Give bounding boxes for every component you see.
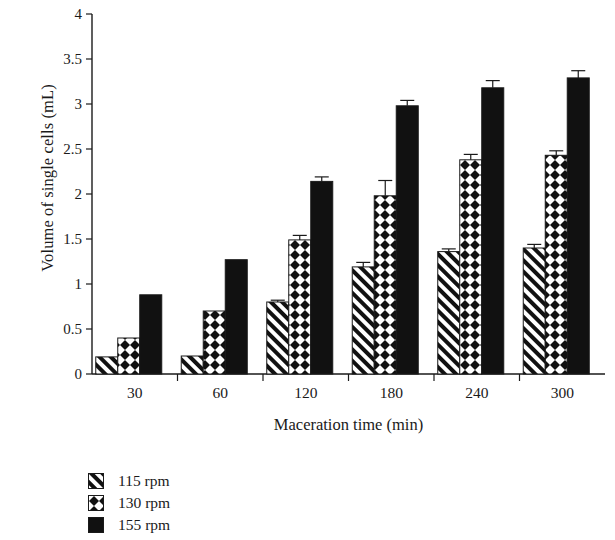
chart-plot-area <box>0 0 615 540</box>
x-axis-title-text: Maceration time (min) <box>274 415 423 434</box>
legend-label: 155 rpm <box>118 516 170 534</box>
bar-155-rpm-60 <box>225 260 247 374</box>
bar-115-rpm-30 <box>96 357 118 374</box>
bar-115-rpm-120 <box>267 302 289 374</box>
x-axis-tick-label: 180 <box>380 384 403 402</box>
legend-item: 115 rpm <box>88 470 170 492</box>
bar-155-rpm-180 <box>396 106 418 374</box>
y-axis-tick-label: 0.5 <box>20 321 82 338</box>
y-axis-title-text: Volume of single cells (mL) <box>38 84 57 272</box>
x-axis-tick-label: 240 <box>465 384 488 402</box>
x-axis-tick-label: 120 <box>294 384 317 402</box>
bar-chart-figure: 00.511.522.533.54 3060120180240300 Volum… <box>0 0 615 540</box>
bar-130-rpm-240 <box>460 160 482 374</box>
bar-115-rpm-240 <box>438 252 460 374</box>
bar-155-rpm-240 <box>482 88 504 374</box>
y-axis-title: Volume of single cells (mL) <box>38 48 58 308</box>
bar-130-rpm-300 <box>545 155 567 374</box>
bar-115-rpm-300 <box>523 248 545 374</box>
bar-130-rpm-180 <box>374 196 396 374</box>
legend-swatch-crosshatch-dots-icon <box>88 495 104 511</box>
bar-115-rpm-180 <box>352 267 374 374</box>
x-axis-tick-label: 300 <box>551 384 574 402</box>
bar-155-rpm-120 <box>311 181 333 374</box>
x-axis-tick-label: 30 <box>127 384 143 402</box>
bar-130-rpm-60 <box>203 311 225 374</box>
legend-label: 115 rpm <box>118 472 170 490</box>
bar-130-rpm-120 <box>289 240 311 374</box>
legend-item: 155 rpm <box>88 514 170 536</box>
x-axis-tick-label: 60 <box>213 384 229 402</box>
legend-swatch-diagonal-hatch-icon <box>88 473 104 489</box>
x-axis-title: Maceration time (min) <box>92 415 605 435</box>
legend-item: 130 rpm <box>88 492 170 514</box>
bar-155-rpm-30 <box>140 295 162 374</box>
y-axis-tick-label: 0 <box>20 366 82 383</box>
bar-115-rpm-60 <box>181 356 203 374</box>
legend-label: 130 rpm <box>118 494 170 512</box>
bar-130-rpm-30 <box>118 338 140 374</box>
chart-legend: 115 rpm130 rpm155 rpm <box>88 470 170 536</box>
legend-swatch-solid-black-icon <box>88 517 104 533</box>
bar-155-rpm-300 <box>567 78 589 374</box>
y-axis-tick-label: 4 <box>20 6 82 23</box>
